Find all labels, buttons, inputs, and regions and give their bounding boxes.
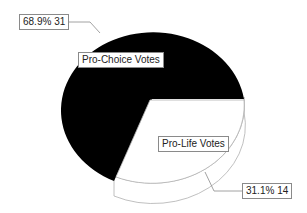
pro-choice-value-label: 68.9% 31	[19, 14, 69, 30]
pie-chart	[0, 0, 307, 213]
pro-life-value-label: 31.1% 14	[242, 183, 292, 199]
pro-life-name-label: Pro-Life Votes	[158, 136, 229, 152]
pro-choice-name-label: Pro-Choice Votes	[78, 52, 164, 68]
